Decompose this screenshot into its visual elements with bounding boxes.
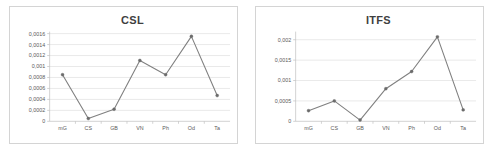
- itfs-x-tick-label: GB: [356, 125, 364, 131]
- chart-panel-itfs: ITFS 00,00050,0010,00150,002mGCSGBVNPhOd…: [255, 6, 484, 144]
- plot-area-itfs: 00,00050,0010,00150,002mGCSGBVNPhOdTa: [256, 7, 483, 143]
- line-chart-itfs: 00,00050,0010,00150,002mGCSGBVNPhOdTa: [256, 7, 483, 143]
- itfs-x-tick-label: mG: [304, 125, 313, 131]
- csl-data-point: [164, 73, 167, 76]
- csl-x-tick-label: CS: [85, 125, 93, 131]
- csl-data-point: [61, 73, 64, 76]
- csl-data-point: [87, 117, 90, 120]
- itfs-data-point: [333, 99, 336, 102]
- csl-x-tick-label: VN: [136, 125, 144, 131]
- csl-y-tick-label: 0,0002: [29, 107, 45, 113]
- figure-canvas: CSL 00,00020,00040,00060,00080,0010,0012…: [0, 0, 494, 151]
- itfs-x-tick-label: CS: [331, 125, 339, 131]
- itfs-x-tick-label: Ta: [460, 125, 466, 131]
- csl-y-tick-label: 0,0016: [29, 31, 45, 37]
- itfs-series-line: [309, 37, 464, 120]
- itfs-y-tick-label: 0,0005: [275, 98, 291, 104]
- itfs-y-tick-label: 0,001: [278, 78, 291, 84]
- csl-y-tick-label: 0,0008: [29, 74, 45, 80]
- csl-x-tick-label: GB: [110, 125, 118, 131]
- plot-area-csl: 00,00020,00040,00060,00080,0010,00120,00…: [10, 7, 237, 143]
- itfs-data-point: [462, 108, 465, 111]
- csl-y-tick-label: 0: [42, 118, 45, 124]
- csl-x-tick-label: mG: [58, 125, 67, 131]
- csl-x-tick-label: Od: [188, 125, 195, 131]
- itfs-data-point: [384, 87, 387, 90]
- csl-data-point: [190, 35, 193, 38]
- itfs-y-tick-label: 0: [288, 118, 291, 124]
- csl-y-tick-label: 0,001: [32, 63, 45, 69]
- csl-x-tick-label: Ta: [214, 125, 220, 131]
- csl-y-tick-label: 0,0012: [29, 53, 45, 59]
- csl-y-tick-label: 0,0014: [29, 42, 45, 48]
- chart-panel-csl: CSL 00,00020,00040,00060,00080,0010,0012…: [9, 6, 238, 144]
- csl-x-tick-label: Ph: [162, 125, 169, 131]
- csl-data-point: [138, 59, 141, 62]
- csl-y-tick-label: 0,0004: [29, 96, 45, 102]
- itfs-x-tick-label: Od: [434, 125, 441, 131]
- itfs-data-point: [359, 119, 362, 122]
- itfs-x-tick-label: Ph: [408, 125, 415, 131]
- csl-data-point: [113, 108, 116, 111]
- itfs-x-tick-label: VN: [382, 125, 390, 131]
- csl-data-point: [216, 94, 219, 97]
- itfs-data-point: [307, 109, 310, 112]
- csl-y-tick-label: 0,0006: [29, 85, 45, 91]
- itfs-y-tick-label: 0,002: [278, 37, 291, 43]
- itfs-data-point: [410, 70, 413, 73]
- itfs-data-point: [436, 35, 439, 38]
- line-chart-csl: 00,00020,00040,00060,00080,0010,00120,00…: [10, 7, 237, 143]
- itfs-y-tick-label: 0,0015: [275, 57, 291, 63]
